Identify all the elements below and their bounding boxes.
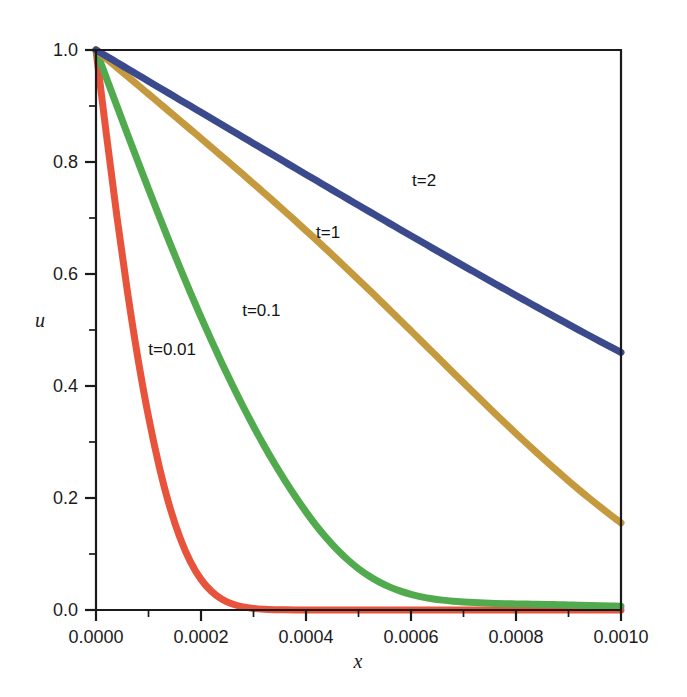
y-tick-label: 1.0	[53, 40, 78, 60]
diffusion-profile-chart: 0.00000.00020.00040.00060.00080.0010 0.0…	[0, 0, 687, 697]
y-axis-title: u	[35, 309, 45, 331]
curve-label-t-2: t=2	[412, 171, 436, 190]
y-tick-label: 0.0	[53, 600, 78, 620]
x-tick-label: 0.0008	[488, 627, 543, 647]
x-tick-label: 0.0010	[593, 627, 648, 647]
y-tick-label: 0.6	[53, 264, 78, 284]
figure-container: 0.00000.00020.00040.00060.00080.0010 0.0…	[0, 0, 687, 697]
curve-label-t-1: t=1	[316, 223, 340, 242]
x-tick-label: 0.0006	[383, 627, 438, 647]
y-tick-label: 0.2	[53, 488, 78, 508]
y-tick-label: 0.4	[53, 376, 78, 396]
x-axis-title: x	[353, 650, 363, 672]
curve-label-t-0-1: t=0.1	[242, 301, 280, 320]
y-tick-label: 0.8	[53, 152, 78, 172]
x-tick-label: 0.0002	[173, 627, 228, 647]
x-tick-label: 0.0000	[68, 627, 123, 647]
curve-label-t-0-01: t=0.01	[148, 340, 196, 359]
x-tick-label: 0.0004	[278, 627, 333, 647]
